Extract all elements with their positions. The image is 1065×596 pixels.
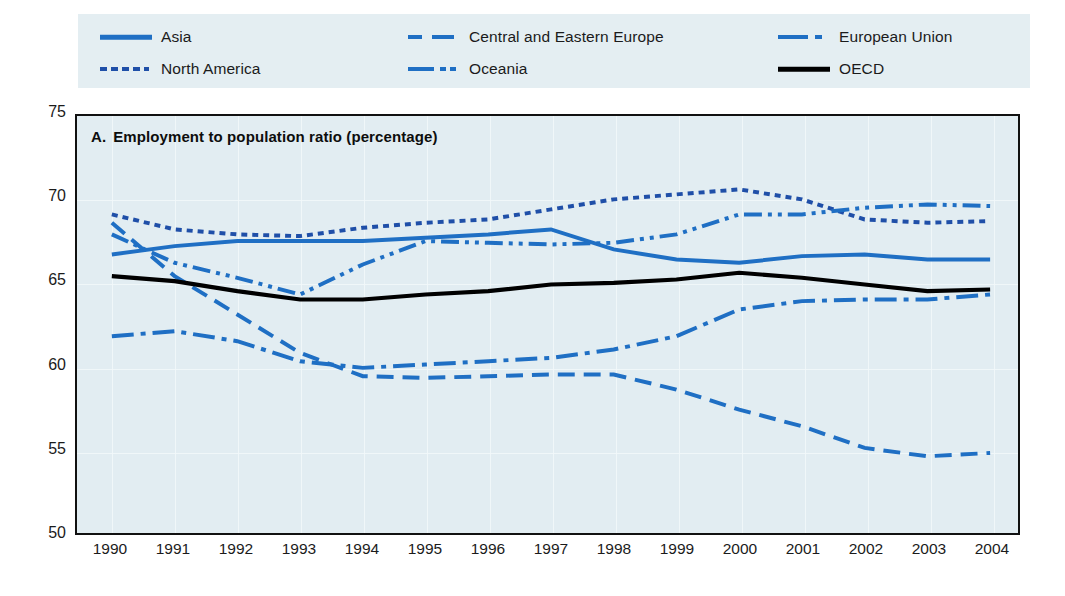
x-axis-tick-label: 1991 — [143, 540, 203, 558]
legend-label: OECD — [839, 60, 884, 78]
x-axis-tick-label: 2000 — [710, 540, 770, 558]
x-axis-tick-label: 1998 — [584, 540, 644, 558]
x-axis-tick-label: 1999 — [647, 540, 707, 558]
chart-page: AsiaCentral and Eastern EuropeEuropean U… — [0, 0, 1065, 596]
x-axis-tick-label: 2002 — [836, 540, 896, 558]
plot-area: A.Employment to population ratio (percen… — [75, 114, 1020, 535]
series-line-central-and-eastern-europe — [112, 223, 990, 457]
legend-label: Asia — [161, 28, 192, 46]
y-axis-tick-label: 65 — [20, 271, 66, 289]
series-line-oecd — [112, 273, 990, 300]
series-lines — [77, 116, 1018, 533]
legend-item-central-and-eastern-europe[interactable]: Central and Eastern Europe — [408, 24, 664, 50]
x-axis-tick-label: 2004 — [962, 540, 1022, 558]
x-axis-tick-label: 2003 — [899, 540, 959, 558]
y-axis-tick-label: 50 — [20, 524, 66, 542]
x-axis-tick-label: 1997 — [521, 540, 581, 558]
legend-label: European Union — [839, 28, 952, 46]
legend-item-oecd[interactable]: OECD — [778, 56, 884, 82]
legend-label: Oceania — [469, 60, 527, 78]
legend-label: North America — [161, 60, 261, 78]
legend-item-european-union[interactable]: European Union — [778, 24, 952, 50]
legend-swatch-icon — [408, 30, 460, 44]
chart-legend: AsiaCentral and Eastern EuropeEuropean U… — [78, 14, 1030, 88]
x-axis-tick-label: 1992 — [206, 540, 266, 558]
x-axis-tick-label: 1995 — [395, 540, 455, 558]
series-line-oceania — [112, 204, 990, 294]
legend-item-oceania[interactable]: Oceania — [408, 56, 527, 82]
legend-item-north-america[interactable]: North America — [100, 56, 261, 82]
x-axis-tick-label: 1994 — [332, 540, 392, 558]
x-axis-tick-label: 1993 — [269, 540, 329, 558]
legend-item-asia[interactable]: Asia — [100, 24, 192, 50]
legend-swatch-icon — [778, 30, 830, 44]
y-axis-tick-label: 70 — [20, 187, 66, 205]
x-axis-tick-label: 2001 — [773, 540, 833, 558]
y-axis-tick-label: 75 — [20, 103, 66, 121]
legend-label: Central and Eastern Europe — [469, 28, 664, 46]
x-axis-tick-label: 1990 — [80, 540, 140, 558]
x-axis: 1990199119921993199419951996199719981999… — [75, 540, 1020, 566]
legend-swatch-icon — [408, 62, 460, 76]
series-line-european-union — [112, 294, 990, 367]
x-axis-tick-label: 1996 — [458, 540, 518, 558]
y-axis: 757065605550 — [14, 114, 66, 535]
y-axis-tick-label: 60 — [20, 356, 66, 374]
legend-swatch-icon — [100, 30, 152, 44]
legend-swatch-icon — [778, 62, 830, 76]
legend-swatch-icon — [100, 62, 152, 76]
y-axis-tick-label: 55 — [20, 440, 66, 458]
